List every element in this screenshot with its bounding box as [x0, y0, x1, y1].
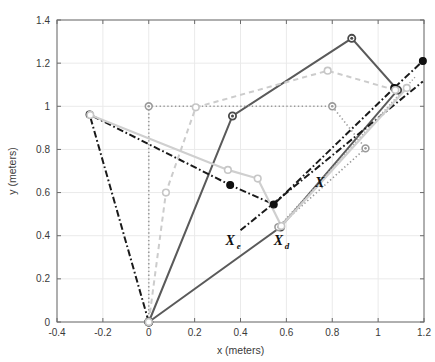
annot-x: X	[314, 175, 325, 190]
data-point-marker	[227, 182, 234, 189]
data-point-marker	[403, 85, 410, 92]
data-point-marker	[145, 319, 152, 326]
y-axis-title: y (meters)	[6, 147, 18, 194]
x-tick-label: 0.6	[279, 327, 293, 338]
data-point-marker	[192, 104, 199, 111]
x-tick-label: -0.2	[94, 327, 112, 338]
series-line-light-gray-dashed-chain	[149, 71, 396, 322]
series-line-light-gray-dotted-ray	[278, 76, 416, 227]
grid-lines	[57, 20, 424, 322]
data-point-marker-core	[147, 105, 150, 108]
y-tick-label: 1.4	[36, 15, 50, 26]
data-point-marker	[419, 58, 426, 65]
chart-figure: -0.4-0.200.20.40.60.811.200.20.40.60.811…	[0, 0, 435, 362]
data-point-marker	[270, 201, 277, 208]
y-tick-label: 0	[44, 317, 50, 328]
data-point-marker-core	[350, 37, 353, 40]
series-line-light-gray-dotted-chain	[149, 106, 366, 322]
annot-x-d-glyph: X	[273, 233, 284, 248]
data-point-marker	[254, 175, 261, 182]
y-tick-label: 1	[44, 101, 50, 112]
x-tick-label: 0	[146, 327, 152, 338]
data-point-marker-core	[364, 147, 367, 150]
y-tick-label: 1.2	[36, 58, 50, 69]
x-tick-label: 0.4	[234, 327, 248, 338]
data-point-marker	[324, 67, 331, 74]
annot-x-glyph: X	[314, 175, 325, 190]
data-point-marker	[278, 223, 285, 230]
y-tick-label: 0.2	[36, 273, 50, 284]
series-line-light-gray-solid-chain	[90, 88, 407, 226]
data-point-marker-core	[231, 114, 234, 117]
series-line-solid-dark-gray-chain	[149, 38, 398, 322]
y-tick-label: 0.8	[36, 144, 50, 155]
x-tick-label: -0.4	[48, 327, 66, 338]
y-tick-label: 0.4	[36, 230, 50, 241]
annot-x-d-subscript: d	[285, 241, 290, 251]
data-point-marker	[87, 112, 94, 119]
data-point-marker-core	[331, 105, 334, 108]
x-axis-title: x (meters)	[217, 344, 264, 356]
x-tick-label: 0.8	[325, 327, 339, 338]
annot-x-e-glyph: X	[225, 233, 236, 248]
y-tick-label: 0.6	[36, 187, 50, 198]
data-point-marker	[163, 189, 170, 196]
x-tick-label: 1	[375, 327, 381, 338]
data-point-marker	[392, 87, 399, 94]
x-tick-label: 0.2	[188, 327, 202, 338]
data-point-marker	[225, 167, 232, 174]
plot-canvas: -0.4-0.200.20.40.60.811.200.20.40.60.811…	[0, 0, 435, 362]
x-tick-label: 1.2	[417, 327, 431, 338]
annot-x-e-subscript: e	[237, 241, 241, 251]
